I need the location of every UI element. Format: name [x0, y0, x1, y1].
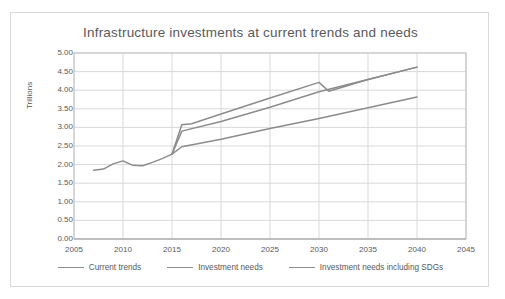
chart-legend: Current trends Investment needs Investme… — [11, 263, 490, 272]
chart-card: Infrastructure investments at current tr… — [10, 12, 489, 287]
x-axis-tick-labels: 200520102015202020252030203520402045 — [11, 13, 490, 288]
legend-item-investment-needs[interactable]: Investment needs — [167, 263, 263, 272]
x-tick-label: 2015 — [152, 245, 192, 254]
x-tick-label: 2035 — [348, 245, 388, 254]
x-tick-label: 2025 — [250, 245, 290, 254]
x-tick-label: 2030 — [299, 245, 339, 254]
legend-line-icon — [289, 267, 315, 268]
x-tick-label: 2010 — [103, 245, 143, 254]
x-tick-label: 2040 — [397, 245, 437, 254]
legend-line-icon — [58, 267, 84, 268]
legend-item-current-trends[interactable]: Current trends — [58, 263, 141, 272]
legend-label: Current trends — [89, 263, 141, 272]
legend-label: Investment needs including SDGs — [320, 263, 443, 272]
legend-line-icon — [167, 267, 193, 268]
legend-item-investment-needs-including-sdgs[interactable]: Investment needs including SDGs — [289, 263, 443, 272]
legend-label: Investment needs — [198, 263, 263, 272]
x-tick-label: 2020 — [201, 245, 241, 254]
x-tick-label: 2045 — [446, 245, 486, 254]
x-tick-label: 2005 — [54, 245, 94, 254]
